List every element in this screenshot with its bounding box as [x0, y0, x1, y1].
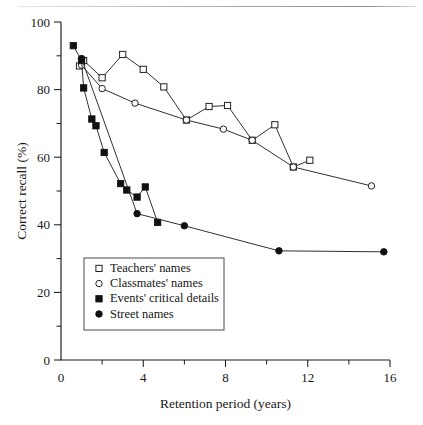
y-tick-label: 0: [44, 353, 51, 368]
data-point: [183, 117, 189, 123]
data-point: [206, 103, 212, 109]
data-point: [78, 55, 85, 62]
legend-label: Street names: [110, 307, 174, 321]
chart-plot: 0204060801000481216 Teachers' namesClass…: [0, 0, 423, 425]
data-point: [117, 180, 123, 186]
data-point: [290, 164, 296, 170]
x-tick-label: 8: [222, 370, 229, 385]
data-point: [89, 116, 95, 122]
data-point: [93, 123, 99, 129]
data-point: [161, 84, 167, 90]
data-point: [224, 102, 230, 108]
series-3: [70, 42, 161, 225]
legend-label: Teachers' names: [110, 261, 191, 275]
legend-marker-open-square: [96, 265, 102, 271]
x-tick-label: 16: [384, 370, 398, 385]
data-point: [272, 122, 278, 128]
x-tick-label: 0: [58, 370, 65, 385]
y-tick-label: 60: [37, 150, 50, 165]
data-point: [307, 157, 313, 163]
data-point: [276, 248, 283, 255]
legend-label: Events' critical details: [110, 291, 219, 305]
series-line: [82, 59, 384, 252]
legend-marker-filled-square: [96, 296, 102, 302]
data-point: [120, 51, 126, 57]
data-point: [249, 137, 255, 143]
legend-item[interactable]: Teachers' names: [96, 261, 191, 275]
data-point: [181, 223, 188, 230]
data-point: [220, 126, 226, 132]
data-point: [134, 210, 141, 217]
x-tick-label: 12: [301, 370, 314, 385]
data-point: [368, 183, 374, 189]
data-point: [132, 100, 138, 106]
x-axis-title: Retention period (years): [160, 396, 291, 411]
data-point: [154, 219, 160, 225]
y-axis-title: Correct recall (%): [14, 142, 29, 239]
series-layer: [70, 42, 387, 255]
x-tick-label: 4: [140, 370, 147, 385]
series-4: [78, 55, 387, 255]
data-point: [80, 85, 86, 91]
data-point: [140, 66, 146, 72]
data-point: [70, 42, 76, 48]
y-tick-label: 40: [37, 217, 50, 232]
series-1: [76, 51, 313, 170]
legend-layer[interactable]: Teachers' namesClassmates' namesEvents' …: [84, 258, 224, 330]
legend-marker-filled-circle: [96, 311, 103, 318]
series-2: [78, 62, 374, 189]
data-point: [101, 149, 107, 155]
data-point: [134, 194, 140, 200]
figure-canvas: 0204060801000481216 Teachers' namesClass…: [0, 0, 423, 425]
data-point: [381, 249, 388, 256]
series-line: [82, 65, 372, 186]
y-tick-label: 20: [37, 285, 50, 300]
legend-item[interactable]: Classmates' names: [96, 276, 203, 290]
data-point: [99, 75, 105, 81]
y-tick-label: 80: [37, 82, 50, 97]
data-point: [142, 184, 148, 190]
legend-item[interactable]: Events' critical details: [96, 291, 219, 305]
legend-label: Classmates' names: [110, 276, 203, 290]
y-tick-label: 100: [31, 15, 51, 30]
data-point: [99, 85, 105, 91]
legend-marker-open-circle: [96, 280, 102, 286]
